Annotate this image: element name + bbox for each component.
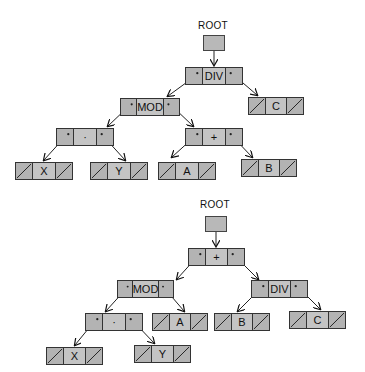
- left-pointer-cell: [86, 314, 103, 330]
- tree2-node-div: DIV: [251, 280, 308, 298]
- tree2-node-plus: +: [188, 248, 245, 266]
- left-pointer-cell: [186, 129, 203, 145]
- right-pointer-cell: [227, 249, 244, 265]
- tree2-root-pointer-box: [205, 216, 227, 232]
- node-value: X: [64, 348, 85, 364]
- null-pointer-cell: [135, 346, 152, 362]
- tree2-node-b: B: [214, 313, 270, 331]
- node-value: C: [266, 98, 286, 114]
- null-pointer-cell: [173, 346, 190, 362]
- tree1-root-label: ROOT: [198, 20, 228, 31]
- null-pointer-cell: [130, 163, 147, 179]
- left-pointer-cell: [186, 68, 203, 84]
- null-pointer-cell: [286, 98, 303, 114]
- node-value: DIV: [203, 68, 225, 84]
- null-pointer-cell: [242, 160, 259, 176]
- null-pointer-cell: [55, 163, 72, 179]
- node-value: A: [176, 163, 198, 179]
- node-value: ·: [103, 314, 125, 330]
- left-pointer-cell: [118, 281, 133, 297]
- right-pointer-cell: [125, 314, 142, 330]
- null-pointer-cell: [16, 163, 33, 179]
- right-pointer-cell: [158, 281, 173, 297]
- node-value: A: [170, 314, 190, 330]
- right-pointer-cell: [290, 281, 307, 297]
- right-pointer-cell: [225, 68, 242, 84]
- tree2-node-times: ·: [85, 313, 143, 331]
- left-pointer-cell: [252, 281, 269, 297]
- node-value: X: [33, 163, 55, 179]
- null-pointer-cell: [85, 348, 102, 364]
- node-value: B: [259, 160, 279, 176]
- tree2-node-x: X: [46, 347, 103, 365]
- node-value: C: [307, 312, 328, 328]
- left-pointer-cell: [57, 129, 74, 145]
- null-pointer-cell: [290, 312, 307, 328]
- null-pointer-cell: [47, 348, 64, 364]
- node-value: B: [232, 314, 252, 330]
- null-pointer-cell: [153, 314, 170, 330]
- node-value: ·: [74, 129, 96, 145]
- tree1-node-y: Y: [90, 162, 148, 180]
- null-pointer-cell: [279, 160, 296, 176]
- tree2-node-mod: MOD: [117, 280, 174, 298]
- node-value: DIV: [269, 281, 290, 297]
- tree2-node-y: Y: [134, 345, 191, 363]
- tree1-node-times: ·: [56, 128, 114, 146]
- right-pointer-cell: [225, 129, 242, 145]
- tree1-node-div: DIV: [185, 67, 243, 85]
- tree1-node-plus: +: [185, 128, 243, 146]
- tree2-node-a: A: [152, 313, 208, 331]
- tree2-node-c: C: [289, 311, 346, 329]
- null-pointer-cell: [328, 312, 345, 328]
- tree2-root-label: ROOT: [200, 199, 230, 210]
- null-pointer-cell: [159, 163, 176, 179]
- node-value: MOD: [133, 281, 159, 297]
- node-value: +: [203, 129, 225, 145]
- tree1-node-a: A: [158, 162, 216, 180]
- tree1-node-x: X: [15, 162, 73, 180]
- left-pointer-cell: [121, 99, 137, 115]
- null-pointer-cell: [91, 163, 108, 179]
- tree1-node-c: C: [248, 97, 304, 115]
- right-pointer-cell: [96, 129, 113, 145]
- node-value: MOD: [137, 99, 163, 115]
- tree1-root-pointer-box: [203, 35, 225, 51]
- node-value: Y: [108, 163, 130, 179]
- node-value: +: [206, 249, 227, 265]
- null-pointer-cell: [215, 314, 232, 330]
- tree1-node-b: B: [241, 159, 297, 177]
- expression-tree-diagram: ROOT DIV MOD C · + X Y A: [0, 0, 365, 372]
- right-pointer-cell: [163, 99, 179, 115]
- null-pointer-cell: [190, 314, 207, 330]
- null-pointer-cell: [198, 163, 215, 179]
- null-pointer-cell: [249, 98, 266, 114]
- tree1-node-mod: MOD: [120, 98, 180, 116]
- left-pointer-cell: [189, 249, 206, 265]
- node-value: Y: [152, 346, 173, 362]
- null-pointer-cell: [252, 314, 269, 330]
